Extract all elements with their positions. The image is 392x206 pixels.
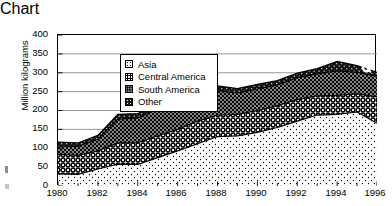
x-tick-label: 1990 xyxy=(239,188,273,198)
y-tick-label: 50 xyxy=(22,161,48,171)
scan-artifact xyxy=(5,166,8,173)
chart-figure: Million kilograms 400 350 300 250 200 15… xyxy=(0,18,392,206)
legend: Asia Central America South America Other xyxy=(120,54,218,112)
x-tick-label: 1984 xyxy=(120,188,154,198)
legend-label-central-america: Central America xyxy=(138,72,206,82)
plot-area: Asia Central America South America Other xyxy=(57,34,376,185)
legend-item-asia[interactable]: Asia xyxy=(125,58,213,71)
x-tick-label: 1986 xyxy=(159,188,193,198)
legend-swatch-asia xyxy=(125,60,133,68)
x-tick-label: 1992 xyxy=(279,188,313,198)
y-tick-label: 250 xyxy=(22,86,48,96)
x-tick-label: 1982 xyxy=(80,188,114,198)
legend-swatch-central-america xyxy=(125,73,133,81)
legend-swatch-south-america xyxy=(125,85,133,93)
legend-item-central-america[interactable]: Central America xyxy=(125,71,213,84)
y-tick-label: 150 xyxy=(22,123,48,133)
y-tick-label: 300 xyxy=(22,67,48,77)
legend-label-south-america: South America xyxy=(138,85,200,95)
scan-artifact xyxy=(5,184,9,189)
legend-label-asia: Asia xyxy=(138,60,156,70)
legend-item-other[interactable]: Other xyxy=(125,96,213,109)
legend-swatch-other xyxy=(125,98,133,106)
y-tick-label: 400 xyxy=(22,29,48,39)
legend-item-south-america[interactable]: South America xyxy=(125,83,213,96)
x-tick-label: 1988 xyxy=(199,188,233,198)
legend-label-other: Other xyxy=(138,97,162,107)
x-tick-label: 1980 xyxy=(40,188,74,198)
y-tick-label: 100 xyxy=(22,142,48,152)
y-tick-label: 350 xyxy=(22,48,48,58)
white-circle-artifact-icon xyxy=(361,60,372,73)
x-axis-title: Year xyxy=(0,204,392,206)
x-tick-label: 1996 xyxy=(358,188,392,198)
x-tick-label: 1994 xyxy=(319,188,353,198)
y-tick-label: 200 xyxy=(22,104,48,114)
